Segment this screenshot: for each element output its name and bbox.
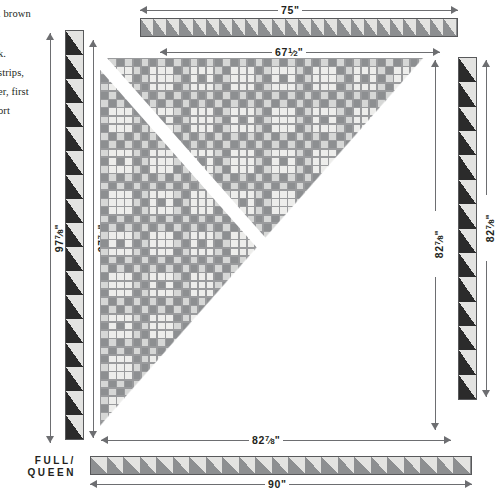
sawtooth-tooth (454, 457, 471, 474)
sawtooth-tooth (207, 19, 220, 36)
sawtooth-tooth (322, 457, 339, 474)
dim-unit: " (281, 478, 287, 490)
sawtooth-tooth (459, 350, 476, 374)
dim-numerator: 1 (288, 46, 292, 55)
dim-unit: " (53, 224, 65, 230)
sawtooth-tooth (289, 457, 306, 474)
arrow-up-icon (46, 33, 54, 40)
dim-fraction: 1⁄2 (288, 48, 298, 58)
arrow-up-icon (89, 40, 97, 47)
sawtooth-tooth (273, 19, 286, 36)
corner-cut-upper-right (100, 58, 426, 429)
body-text-line-1: . brown (0, 8, 31, 19)
sawtooth-tooth (66, 247, 83, 271)
size-label-line-1: FULL/ (2, 455, 76, 467)
arrow-right-icon (451, 6, 458, 14)
arrow-up-icon (482, 60, 490, 67)
sawtooth-tooth (260, 19, 273, 36)
sawtooth-tooth (124, 457, 141, 474)
sawtooth-tooth (66, 343, 83, 367)
sawtooth-tooth (286, 19, 299, 36)
sawtooth-tooth (404, 19, 417, 36)
arrow-down-icon (482, 390, 490, 397)
dim-fraction: 7⁄8 (55, 229, 65, 239)
rule-bar (50, 33, 51, 443)
sawtooth-tooth (174, 457, 191, 474)
sawtooth-tooth (459, 204, 476, 228)
sawtooth-tooth (108, 457, 125, 474)
sawtooth-tooth (421, 457, 438, 474)
sawtooth-tooth (167, 19, 180, 36)
sawtooth-tooth (66, 31, 83, 55)
arrow-down-icon (431, 423, 439, 430)
sawtooth-tooth (438, 457, 455, 474)
sawtooth-tooth (66, 295, 83, 319)
size-label-line-2: QUEEN (2, 467, 76, 479)
dim-unit: " (484, 214, 495, 220)
sawtooth-border-top (140, 18, 458, 37)
dim-fraction: 7⁄8 (265, 436, 275, 446)
dim-denominator: 8 (487, 219, 495, 223)
sawtooth-tooth (181, 19, 194, 36)
arrow-left-icon (90, 480, 97, 488)
sawtooth-tooth (66, 175, 83, 199)
sawtooth-tooth (141, 457, 158, 474)
dim-numerator: 7 (53, 235, 62, 239)
sawtooth-tooth (306, 457, 323, 474)
sawtooth-tooth (233, 19, 246, 36)
sawtooth-tooth (444, 19, 457, 36)
sawtooth-tooth (66, 103, 83, 127)
dim-unit: " (275, 434, 281, 446)
sawtooth-tooth (459, 302, 476, 326)
arrow-left-icon (101, 436, 108, 444)
sawtooth-tooth (66, 79, 83, 103)
sawtooth-border-bottom (90, 456, 472, 475)
body-text-line-2: k. (0, 48, 6, 59)
sawtooth-tooth (391, 19, 404, 36)
dimension-label-bottom-outer: 90" (265, 478, 289, 490)
dim-numerator: 7 (433, 241, 442, 245)
quilt-body (100, 58, 426, 429)
sawtooth-tooth (299, 19, 312, 36)
sawtooth-tooth (66, 391, 83, 415)
arrow-left-icon (140, 6, 147, 14)
sawtooth-tooth (418, 19, 431, 36)
sawtooth-tooth (355, 457, 372, 474)
sawtooth-tooth (66, 127, 83, 151)
sawtooth-tooth (66, 367, 83, 391)
sawtooth-tooth (459, 82, 476, 106)
sawtooth-tooth (91, 457, 108, 474)
sawtooth-tooth (388, 457, 405, 474)
sawtooth-tooth (459, 229, 476, 253)
sawtooth-tooth (459, 326, 476, 350)
sawtooth-tooth (273, 457, 290, 474)
arrow-down-icon (89, 431, 97, 438)
sawtooth-tooth (431, 19, 444, 36)
arrow-down-icon (46, 436, 54, 443)
dim-unit: " (433, 230, 445, 236)
body-text-line-5: ort (0, 105, 10, 116)
dim-fraction: 7⁄8 (435, 235, 445, 245)
rule-bar (93, 40, 94, 438)
arrow-left-icon (160, 48, 167, 56)
sawtooth-tooth (339, 19, 352, 36)
sawtooth-tooth (246, 19, 259, 36)
arrow-right-icon (444, 436, 451, 444)
sawtooth-tooth (66, 55, 83, 79)
arrow-up-icon (431, 60, 439, 67)
dimension-label-top-inner: 671⁄2" (272, 46, 306, 58)
dim-value: 82 (252, 434, 265, 446)
size-label: FULL/ QUEEN (2, 455, 76, 479)
sawtooth-tooth (190, 457, 207, 474)
sawtooth-tooth (220, 19, 233, 36)
dimension-label-top-outer: 75" (278, 4, 302, 16)
sawtooth-tooth (339, 457, 356, 474)
dim-value: 90 (268, 478, 281, 490)
sawtooth-tooth (157, 457, 174, 474)
dim-denominator: 8 (436, 235, 445, 239)
sawtooth-tooth (66, 415, 83, 439)
sawtooth-border-right (458, 57, 477, 400)
dim-value: 82 (484, 229, 495, 242)
dim-value: 75 (281, 4, 294, 16)
sawtooth-tooth (194, 19, 207, 36)
